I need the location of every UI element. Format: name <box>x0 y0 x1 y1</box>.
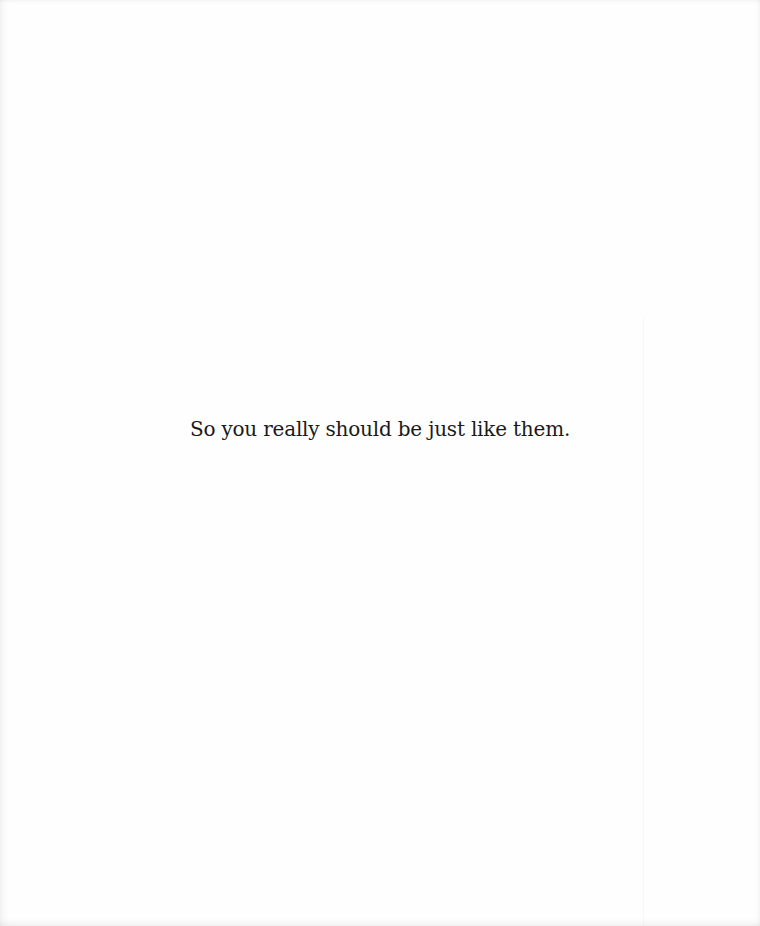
page-text-line: So you really should be just like them. <box>0 414 760 444</box>
page-text: So you really should be just like them. <box>190 414 570 444</box>
book-page: So you really should be just like them. <box>0 0 760 926</box>
page-fold-shadow <box>643 318 644 926</box>
